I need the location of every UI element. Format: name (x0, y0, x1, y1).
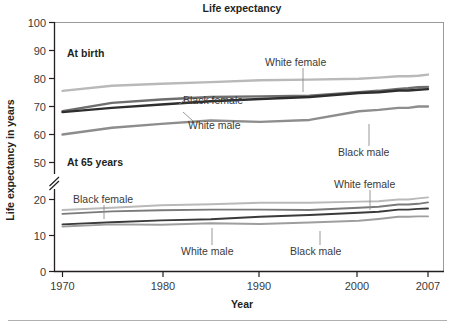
x-tick-label-1970: 1970 (50, 280, 74, 292)
y-axis-title: Life expectancy in years (4, 99, 16, 221)
y-tick-label-60: 60 (34, 129, 46, 141)
y-tick-label-80: 80 (34, 73, 46, 85)
y-tick-label-70: 70 (34, 101, 46, 113)
y-tick-label-50: 50 (34, 157, 46, 169)
x-axis-title: Year (231, 298, 253, 310)
y-tick-label-20: 20 (34, 194, 46, 206)
y-tick-label-100: 100 (28, 17, 46, 29)
y-tick-label-90: 90 (34, 45, 46, 57)
y-axis-break-marker (50, 174, 60, 190)
callout-65-black-male: Black male (290, 245, 342, 257)
chart-title: Life expectancy (203, 2, 282, 14)
callout-65-black-female: Black female (73, 193, 133, 205)
callout-birth-black-male: Black male (338, 146, 390, 158)
y-tick-label-10: 10 (34, 230, 46, 242)
callout-65-white-female: White female (334, 178, 395, 190)
life-expectancy-chart: Life expectancy Life expectancy in years… (0, 0, 455, 327)
panel-heading-at-65: At 65 years (67, 156, 123, 168)
y-tick-label-0: 0 (40, 266, 46, 278)
callout-birth-white-female: White female (265, 56, 326, 68)
x-tick-label-2000: 2000 (345, 280, 369, 292)
callout-birth-white-male: White male (188, 119, 241, 131)
x-tick-label-1980: 1980 (151, 280, 175, 292)
callout-65-white-male: White male (181, 245, 234, 257)
callout-birth-black-female: Black female (183, 94, 243, 106)
panel-heading-at-birth: At birth (67, 47, 104, 59)
x-tick-label-1990: 1990 (247, 280, 271, 292)
x-tick-label-2007: 2007 (416, 280, 440, 292)
